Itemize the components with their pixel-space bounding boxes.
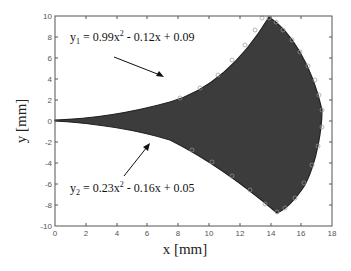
svg-text:-8: -8 [45,201,53,210]
svg-text:16: 16 [297,229,306,238]
svg-text:0: 0 [53,229,58,238]
x-tick-labels: 0 2 4 6 8 10 12 14 16 18 [53,229,337,238]
x-axis-label: x [mm] [163,241,208,257]
y-tick-labels: 10 8 6 4 2 0 -2 -4 -6 -8 -10 [40,12,52,231]
svg-text:12: 12 [236,229,245,238]
equation-y1: y1 = 0.99x2 - 0.12x + 0.09 [70,29,195,46]
svg-text:10: 10 [43,12,52,21]
svg-text:8: 8 [176,229,181,238]
svg-text:2: 2 [48,96,53,105]
svg-text:10: 10 [205,229,214,238]
arrow-y1 [114,57,164,77]
arrow-y2 [124,143,150,176]
svg-text:4: 4 [115,229,120,238]
svg-text:18: 18 [328,229,337,238]
chart-svg: 0 2 4 6 8 10 12 14 16 18 10 8 6 4 2 0 -2… [0,0,351,271]
svg-text:0: 0 [48,117,53,126]
y-axis-label: y [mm] [13,99,29,144]
svg-text:6: 6 [48,54,53,63]
svg-text:-10: -10 [40,222,52,231]
equation-y2: y2 = 0.23x2 - 0.16x + 0.05 [70,180,195,197]
svg-text:14: 14 [267,229,276,238]
svg-text:-2: -2 [45,138,53,147]
svg-text:2: 2 [84,229,89,238]
svg-text:-4: -4 [45,159,53,168]
svg-text:4: 4 [48,75,53,84]
svg-text:-6: -6 [45,180,53,189]
svg-text:8: 8 [48,33,53,42]
svg-text:6: 6 [145,229,150,238]
